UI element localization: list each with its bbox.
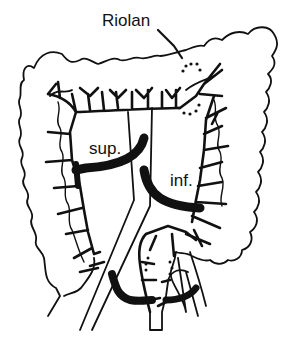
label-riolan: Riolan xyxy=(102,12,150,29)
arc-of-riolan xyxy=(158,30,202,116)
colon-diagram xyxy=(0,0,290,342)
sigmoid-rectum xyxy=(112,226,198,330)
label-superior-mesenteric: sup. xyxy=(89,140,121,157)
label-inferior-mesenteric: inf. xyxy=(170,172,193,189)
